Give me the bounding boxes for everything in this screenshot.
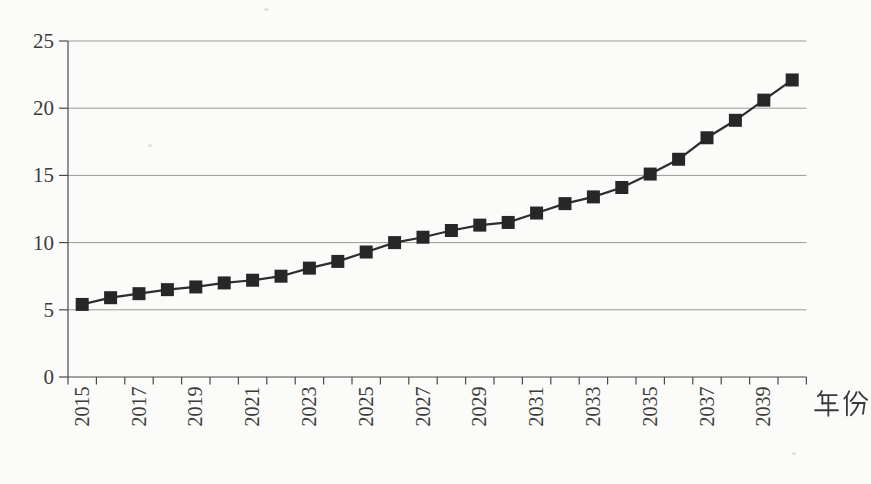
data-point-marker [672,153,685,166]
glyph-stroke [851,403,859,415]
x-tick-label: 2015 [71,387,93,427]
x-tick-labels: 2015201720192021202320252027202920312033… [71,387,775,427]
data-point-marker [104,291,117,304]
data-series [76,73,799,310]
data-point-marker [615,181,628,194]
scan-speck [148,144,152,147]
y-gridlines [68,41,806,310]
x-tick-label: 2027 [412,387,434,427]
y-tick-label: 15 [33,163,54,187]
data-point-marker [360,246,373,259]
data-point-marker [559,197,572,210]
chart-figure: 0510152025201520172019202120232025202720… [0,0,871,484]
data-point-marker [417,231,430,244]
data-point-marker [587,190,600,203]
scan-speck [792,452,796,455]
scan-speck [264,8,269,11]
data-point-marker [189,280,202,293]
data-point-marker [76,298,89,311]
x-tick-label: 2017 [128,387,150,427]
data-point-marker [644,168,657,181]
data-point-marker [701,131,714,144]
x-axis-title-glyph [844,391,867,415]
data-point-marker [246,274,259,287]
x-axis-title-glyph [815,391,838,416]
data-point-marker [530,207,543,220]
x-tick-label: 2031 [525,387,547,427]
x-axis [68,377,806,385]
x-tick-label: 2033 [582,387,604,427]
data-point-marker [729,114,742,127]
x-tick-label: 2037 [696,387,718,427]
data-point-marker [275,270,288,283]
x-tick-label: 2039 [752,387,774,427]
series-line [82,80,792,304]
y-tick-label: 0 [44,365,55,389]
x-axis-title [815,391,867,416]
x-tick-label: 2019 [184,387,206,427]
x-tick-label: 2025 [355,387,377,427]
glyph-stroke [851,392,857,401]
glyph-stroke [859,392,867,400]
data-point-marker [218,276,231,289]
data-point-marker [445,224,458,237]
x-tick-label: 2023 [298,387,320,427]
data-point-marker [757,94,770,107]
y-tick-label: 10 [33,231,54,255]
y-tick-labels: 0510152025 [33,29,54,389]
data-point-marker [331,255,344,268]
x-tick-label: 2035 [639,387,661,427]
data-point-marker [786,73,799,86]
data-point-marker [388,236,401,249]
y-tick-label: 25 [33,29,54,53]
y-axis [59,41,68,377]
y-tick-label: 5 [44,298,55,322]
data-point-marker [502,216,515,229]
data-point-marker [161,283,174,296]
data-point-marker [473,219,486,232]
data-point-marker [303,262,316,275]
y-tick-label: 20 [33,96,54,120]
line-chart: 0510152025201520172019202120232025202720… [0,0,871,484]
x-tick-label: 2029 [468,387,490,427]
x-tick-label: 2021 [241,387,263,427]
data-point-marker [133,287,146,300]
